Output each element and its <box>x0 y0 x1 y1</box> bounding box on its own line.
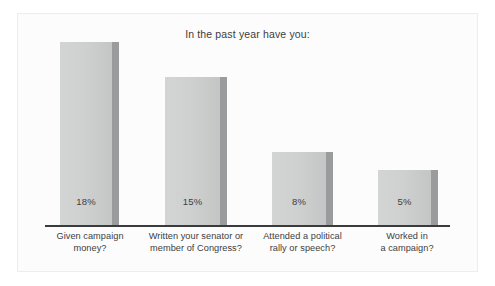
bar-category-label-1-line1: Given campaign <box>42 231 138 243</box>
bar-category-label-3: Attended a political rally or speech? <box>246 231 359 254</box>
bar-side-face <box>431 170 438 225</box>
bar-attended-rally-speech: 8% <box>272 152 333 225</box>
bar-side-face <box>220 77 227 225</box>
bar-category-label-3-line2: rally or speech? <box>246 243 359 255</box>
bar-category-label-3-line1: Attended a political <box>246 231 359 243</box>
bar-category-label-4-line1: Worked in <box>355 231 459 243</box>
bar-written-senator-congress: 15% <box>165 77 227 225</box>
x-axis-baseline <box>45 225 450 227</box>
bar-value-label: 15% <box>165 196 220 207</box>
plot-area: 18% Given campaign money? 15% Written yo… <box>0 0 495 286</box>
bar-worked-in-campaign: 5% <box>378 170 438 225</box>
bar-category-label-1: Given campaign money? <box>42 231 138 254</box>
chart-figure: In the past year have you: 18% Given cam… <box>0 0 495 286</box>
bar-side-face <box>326 152 333 225</box>
bar-side-face <box>112 42 119 225</box>
bar-category-label-2-line2: member of Congress? <box>137 243 255 255</box>
bar-given-campaign-money: 18% <box>60 42 119 225</box>
bar-value-label: 5% <box>378 196 431 207</box>
bar-category-label-2: Written your senator or member of Congre… <box>137 231 255 254</box>
bar-category-label-4: Worked in a campaign? <box>355 231 459 254</box>
bar-category-label-1-line2: money? <box>42 243 138 255</box>
bar-value-label: 8% <box>272 196 326 207</box>
bar-category-label-2-line1: Written your senator or <box>137 231 255 243</box>
bar-value-label: 18% <box>60 196 112 207</box>
bar-category-label-4-line2: a campaign? <box>355 243 459 255</box>
bar-front-face <box>272 152 326 225</box>
